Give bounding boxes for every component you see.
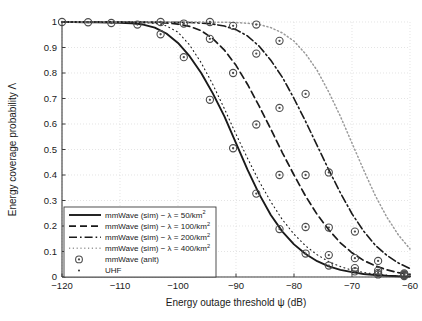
y-tick-label: 0.1 (44, 246, 57, 257)
legend-dot-swatch (78, 270, 80, 272)
legend-item-label: mmWave (sim) − λ = 400/km2 (105, 243, 210, 253)
y-tick-label: 0.5 (44, 144, 57, 155)
x-tick-label: −90 (228, 280, 244, 291)
y-tick-label: 0.9 (44, 42, 57, 53)
y-axis-title: Energy coverage probability Λ (7, 82, 18, 216)
x-axis-title: Energy outage threshold ψ (dB) (166, 297, 307, 308)
x-tick-label: −70 (344, 280, 360, 291)
legend-item-label: mmWave (sim) − λ = 50/km2 (105, 209, 206, 219)
y-tick-label: 0.6 (44, 118, 57, 129)
legend-item-label: mmWave (sim) − λ = 200/km2 (105, 232, 210, 242)
legend-item-label: mmWave (anlt) (105, 255, 159, 264)
y-tick-label: 0.7 (44, 93, 57, 104)
legend-marker-dot (78, 258, 80, 260)
x-tick-label: −110 (110, 280, 131, 291)
y-tick-label: 0.2 (44, 220, 57, 231)
legend-item-label: UHF (105, 266, 122, 275)
energy-coverage-probability-chart: −120−110−100−90−80−70−6000.10.20.30.40.5… (0, 0, 422, 321)
figure-container: −120−110−100−90−80−70−6000.10.20.30.40.5… (0, 0, 422, 321)
y-tick-label: 1 (52, 16, 57, 27)
x-tick-label: −60 (402, 280, 418, 291)
y-tick-label: 0.8 (44, 67, 57, 78)
legend[interactable]: mmWave (sim) − λ = 50/km2mmWave (sim) − … (64, 207, 216, 277)
y-tick-label: 0.3 (44, 195, 57, 206)
legend-item-label: mmWave (sim) − λ = 100/km2 (105, 221, 210, 231)
y-tick-label: 0.4 (44, 169, 57, 180)
x-tick-label: −100 (167, 280, 188, 291)
y-tick-label: 0 (52, 271, 57, 282)
x-tick-label: −80 (286, 280, 302, 291)
